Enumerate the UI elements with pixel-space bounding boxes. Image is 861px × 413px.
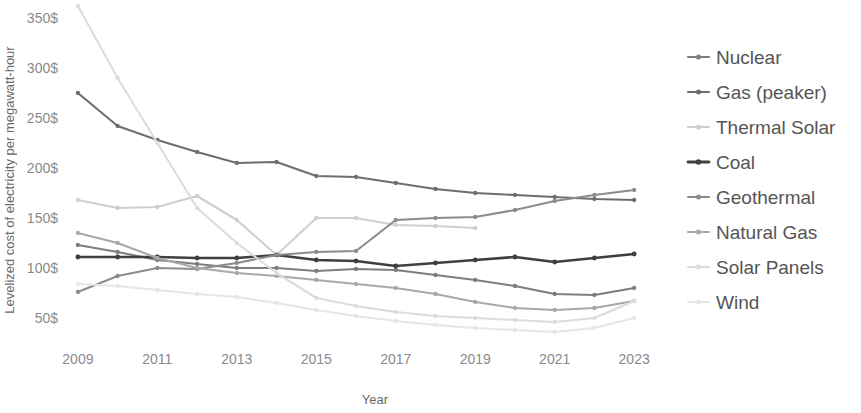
data-point-marker bbox=[115, 76, 119, 80]
plot-area bbox=[75, 4, 636, 334]
data-point-marker bbox=[433, 314, 437, 318]
x-axis-title: Year bbox=[362, 392, 389, 407]
data-point-marker bbox=[274, 271, 278, 275]
data-point-marker bbox=[354, 304, 358, 308]
x-tick-label: 2017 bbox=[380, 351, 411, 367]
data-point-marker bbox=[115, 241, 119, 245]
chart-canvas: Levelized cost of electricity per megawa… bbox=[0, 0, 861, 413]
series-geothermal bbox=[76, 188, 637, 294]
y-tick-label: 350$ bbox=[27, 10, 58, 26]
legend-item-label: Wind bbox=[716, 292, 759, 313]
data-point-marker bbox=[195, 266, 199, 270]
x-tick-label: 2023 bbox=[619, 351, 650, 367]
data-point-marker bbox=[235, 161, 239, 165]
data-point-marker bbox=[592, 197, 596, 201]
data-point-marker bbox=[473, 316, 477, 320]
data-point-marker bbox=[155, 141, 159, 145]
data-point-marker bbox=[513, 284, 517, 288]
data-point-marker bbox=[354, 267, 358, 271]
data-point-marker bbox=[433, 187, 437, 191]
data-point-marker bbox=[632, 188, 636, 192]
legend-item-label: Geothermal bbox=[716, 187, 815, 208]
data-point-marker bbox=[195, 194, 199, 198]
legend-marker-swatch bbox=[696, 159, 702, 165]
data-point-marker bbox=[513, 208, 517, 212]
data-point-marker bbox=[115, 206, 119, 210]
y-tick-label: 50$ bbox=[35, 310, 59, 326]
data-point-marker bbox=[473, 226, 477, 230]
data-point-marker bbox=[235, 266, 239, 270]
data-point-marker bbox=[354, 216, 358, 220]
y-tick-label: 200$ bbox=[27, 160, 58, 176]
y-tick-label: 100$ bbox=[27, 260, 58, 276]
data-point-marker bbox=[393, 264, 398, 269]
data-point-marker bbox=[76, 290, 80, 294]
data-point-marker bbox=[473, 258, 478, 263]
legend-item-solar-panels[interactable]: Solar Panels bbox=[688, 257, 824, 278]
legend-item-label: Solar Panels bbox=[716, 257, 824, 278]
legend-item-gas-peaker[interactable]: Gas (peaker) bbox=[688, 82, 827, 103]
y-tick-label: 300$ bbox=[27, 60, 58, 76]
data-point-marker bbox=[314, 278, 318, 282]
data-point-marker bbox=[235, 295, 239, 299]
data-point-marker bbox=[553, 320, 557, 324]
legend-item-natural-gas[interactable]: Natural Gas bbox=[688, 222, 817, 243]
data-point-marker bbox=[274, 160, 278, 164]
data-point-marker bbox=[592, 326, 596, 330]
legend-marker-swatch bbox=[696, 300, 701, 305]
data-point-marker bbox=[314, 216, 318, 220]
data-point-marker bbox=[394, 181, 398, 185]
series-line bbox=[78, 93, 634, 200]
legend-item-coal[interactable]: Coal bbox=[688, 152, 755, 173]
data-point-marker bbox=[354, 249, 358, 253]
legend-marker-swatch bbox=[696, 195, 701, 200]
data-point-marker bbox=[314, 258, 319, 263]
data-point-marker bbox=[433, 323, 437, 327]
legend-marker-swatch bbox=[696, 125, 701, 130]
series-line bbox=[78, 233, 634, 310]
data-point-marker bbox=[115, 255, 120, 260]
x-tick-label: 2009 bbox=[62, 351, 93, 367]
series-line bbox=[78, 6, 634, 322]
x-tick-label: 2015 bbox=[301, 351, 332, 367]
data-point-marker bbox=[235, 241, 239, 245]
data-point-marker bbox=[433, 292, 437, 296]
data-point-marker bbox=[354, 282, 358, 286]
data-point-marker bbox=[314, 296, 318, 300]
data-point-marker bbox=[433, 224, 437, 228]
data-point-marker bbox=[394, 223, 398, 227]
data-point-marker bbox=[314, 308, 318, 312]
legend-item-wind[interactable]: Wind bbox=[688, 292, 759, 313]
data-point-marker bbox=[354, 314, 358, 318]
data-point-marker bbox=[234, 256, 239, 261]
data-point-marker bbox=[433, 261, 438, 266]
data-point-marker bbox=[76, 231, 80, 235]
data-point-marker bbox=[473, 215, 477, 219]
legend-marker-swatch bbox=[696, 265, 701, 270]
data-point-marker bbox=[195, 262, 199, 266]
legend-item-label: Gas (peaker) bbox=[716, 82, 827, 103]
chart-legend: NuclearGas (peaker)Thermal SolarCoalGeot… bbox=[688, 47, 836, 313]
data-point-marker bbox=[553, 195, 557, 199]
data-point-marker bbox=[394, 268, 398, 272]
data-point-marker bbox=[76, 91, 80, 95]
data-point-marker bbox=[195, 292, 199, 296]
data-point-marker bbox=[513, 193, 517, 197]
data-point-marker bbox=[274, 253, 278, 257]
legend-item-label: Coal bbox=[716, 152, 755, 173]
data-point-marker bbox=[433, 216, 437, 220]
data-point-marker bbox=[553, 199, 557, 203]
series-thermal-solar bbox=[76, 194, 478, 257]
data-point-marker bbox=[553, 308, 557, 312]
data-point-marker bbox=[513, 328, 517, 332]
legend-item-nuclear[interactable]: Nuclear bbox=[688, 47, 782, 68]
data-point-marker bbox=[632, 299, 636, 303]
y-axis-title: Levelized cost of electricity per megawa… bbox=[2, 46, 17, 314]
data-point-marker bbox=[592, 316, 596, 320]
x-tick-label: 2011 bbox=[142, 351, 172, 367]
legend-marker-swatch bbox=[696, 90, 701, 95]
legend-item-geothermal[interactable]: Geothermal bbox=[688, 187, 815, 208]
legend-item-thermal-solar[interactable]: Thermal Solar bbox=[688, 117, 836, 138]
data-point-marker bbox=[513, 318, 517, 322]
data-point-marker bbox=[76, 198, 80, 202]
